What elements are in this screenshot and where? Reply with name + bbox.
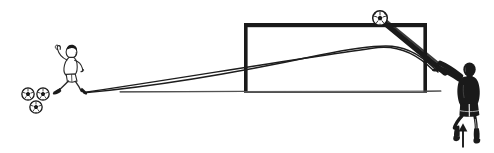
figure-canvas: Chipped shot over the goalkeeper into th…	[0, 0, 494, 153]
soccer-ball	[22, 88, 34, 100]
soccer-ball	[37, 88, 49, 100]
goal-crossbar	[244, 23, 427, 27]
goalkeeper-right-sock	[474, 128, 480, 139]
goalkeeper-jersey	[457, 76, 479, 106]
ball-in-flight	[373, 11, 388, 26]
soccer-diagram-svg	[0, 0, 494, 153]
goal-left-post	[244, 23, 248, 92]
soccer-ball	[30, 101, 42, 113]
